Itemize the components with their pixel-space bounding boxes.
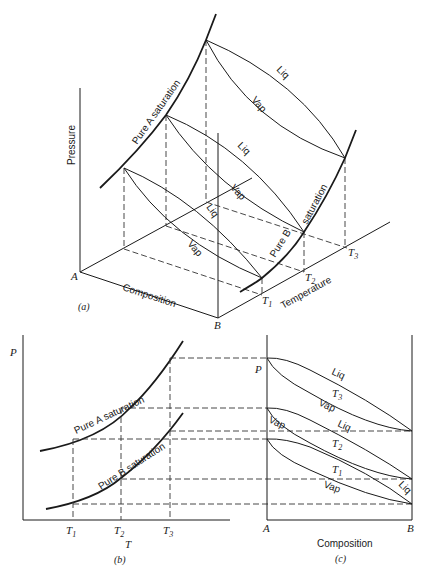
panel-b-caption: (b) [114, 554, 126, 566]
t3-liq-label-c: Liq [330, 366, 347, 382]
lens-t1-vap-label: Vap [185, 238, 205, 258]
composition-label-c: Composition [317, 538, 373, 549]
lens-t2-liq [166, 115, 304, 232]
t1-vap-label-c: Vap [322, 479, 342, 495]
panel-c-caption: (c) [335, 553, 347, 565]
phase-diagram-figure: Pressure Composition Temperature A B (a)… [0, 0, 429, 578]
pure-b-saturation-curve [240, 130, 356, 292]
t3-label-c: T3 [332, 387, 342, 402]
lens-t1-liq-label: Liq [204, 202, 221, 219]
p-axis-label-b: P [9, 346, 17, 358]
corner-a-label: A [70, 270, 78, 282]
t2-vap-label-c: Vap [267, 414, 287, 431]
t2-label-c: T2 [332, 437, 342, 452]
composition-axis-label: Composition [121, 281, 177, 309]
pure-a-label-b: Pure A saturation [72, 394, 146, 436]
pressure-axis-label: Pressure [66, 125, 77, 165]
b-label-c: B [407, 522, 414, 534]
t1-label-b: T1 [66, 524, 76, 539]
lens-t2-vap-label: Vap [229, 182, 249, 202]
lens-t2-vap [166, 115, 304, 232]
pure-b-label: Pure B [267, 227, 293, 259]
t2-label-b: T2 [114, 524, 124, 539]
lens-t3-vap [206, 40, 345, 158]
lens-t3-vap-label: Vap [249, 94, 269, 114]
pure-b-label-b: Pure B saturation [96, 440, 167, 491]
t-axis-label-b: T [125, 538, 132, 550]
panel-b-pt-diagram: P Pure A saturation Pure B saturation T1… [9, 335, 412, 566]
p-label-c: P [254, 363, 262, 375]
t1-label-c: T1 [332, 463, 342, 478]
pure-a-saturation-label: Pure A saturation [130, 77, 183, 146]
lens-t2-liq-label: Liq [236, 140, 253, 157]
panel-a-3d-diagram: Pressure Composition Temperature A B (a)… [66, 14, 390, 331]
lens-t3-liq [206, 40, 345, 158]
lens-t1-vap [124, 168, 262, 278]
a-label-c: A [262, 522, 270, 534]
t1-tick-label: T1 [262, 294, 272, 309]
lens-t1-liq [124, 168, 262, 278]
lens-t3-liq-label: Liq [275, 64, 292, 81]
t3-label-b: T3 [163, 524, 173, 539]
pure-b-curve-b [46, 413, 183, 509]
t1-liq-label-c: Liq [397, 479, 414, 496]
corner-b-label: B [214, 319, 221, 331]
panel-a-caption: (a) [78, 301, 90, 313]
panel-c-px-diagram: P Liq T3 Vap Liq T2 Vap T1 Vap Liq A B C… [254, 335, 414, 565]
pure-a-curve-b [40, 341, 183, 451]
t3-vap-label-c: Vap [317, 397, 337, 414]
saturation-label: saturation [299, 182, 329, 226]
t3-tick-label: T3 [348, 246, 358, 261]
